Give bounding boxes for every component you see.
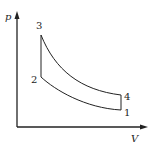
point-label-4: 4 bbox=[124, 91, 130, 102]
x-axis-label: V bbox=[131, 133, 140, 144]
x-axis-arrow-icon bbox=[140, 125, 148, 130]
y-axis-arrow-icon bbox=[15, 11, 20, 19]
point-label-1: 1 bbox=[124, 107, 130, 118]
y-axis-label: p bbox=[5, 11, 12, 22]
point-label-3: 3 bbox=[36, 20, 42, 31]
point-label-2: 2 bbox=[31, 74, 37, 85]
pv-diagram: p V 3 2 4 1 bbox=[0, 0, 160, 150]
